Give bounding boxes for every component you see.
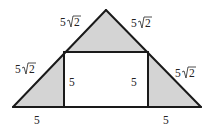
label-bottom-right-slant: 5 2: [175, 67, 196, 79]
label-radicand: 2: [29, 63, 35, 75]
label-top-right-slant: 5 2: [131, 17, 152, 29]
label-bottom-left-slant: 5 2: [15, 63, 36, 75]
label-rect-left-height: 5: [69, 76, 75, 88]
label-top-left-slant: 5 2: [60, 16, 81, 28]
label-coef: 5: [15, 63, 21, 75]
label-base-right-segment: 5: [163, 114, 169, 126]
label-radicand: 2: [74, 16, 80, 28]
label-radicand: 2: [189, 67, 195, 79]
label-radicand: 2: [145, 17, 151, 29]
label-coef: 5: [131, 17, 137, 29]
triangle-rectangle-diagram: 5 2 5 2 5 2 5 2 5 5 5 5: [0, 0, 210, 131]
label-coef: 5: [60, 16, 66, 28]
label-rect-right-height: 5: [131, 76, 137, 88]
label-base-left-segment: 5: [34, 114, 40, 126]
label-coef: 5: [175, 67, 181, 79]
